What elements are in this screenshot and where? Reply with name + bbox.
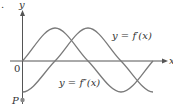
label-second-derivative: y = f″(x) <box>58 77 100 88</box>
x-axis-label: x <box>169 55 173 66</box>
label-first-derivative: y = f′(x) <box>111 30 152 41</box>
origin-label: 0 <box>14 63 20 74</box>
point-p-marker <box>20 98 24 102</box>
point-p-label: P <box>11 95 19 106</box>
x-axis-arrow-icon <box>162 59 168 64</box>
y-axis-arrow-icon <box>20 10 25 16</box>
derivative-graph: . x y 0 y = f′(x) y = f″(x) P <box>0 0 173 112</box>
y-axis-label: y <box>18 0 25 10</box>
figure-marker: . <box>1 0 4 10</box>
